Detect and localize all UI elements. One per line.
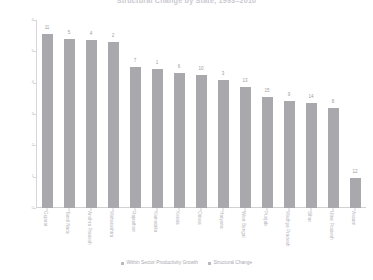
bar-slot: 15: [256, 20, 278, 208]
x-label-slot: Uttar Pradesh: [322, 211, 344, 257]
x-label-slot: Tamil Nadu: [58, 211, 80, 257]
x-tick-label: Gujarat: [42, 211, 47, 226]
chart-legend: Within Sector Productivity GrowthStructu…: [0, 261, 373, 266]
x-tick-label: Orissa: [196, 211, 201, 225]
x-label-slot: Haryana: [212, 211, 234, 257]
bar[interactable]: 12: [350, 178, 361, 208]
x-label-slot: Bihar: [300, 211, 322, 257]
chart-container: Structural Change by State, 1993–2010 An…: [0, 0, 373, 280]
x-label-slot: Assam: [344, 211, 366, 257]
bar-value-label: 6: [178, 65, 181, 70]
x-tick-label: Andhra Pradesh: [86, 211, 91, 245]
bar-value-label: 12: [352, 170, 357, 175]
bar[interactable]: 7: [130, 67, 141, 208]
x-label-slot: Andhra Pradesh: [80, 211, 102, 257]
bar-slot: 6: [168, 20, 190, 208]
bar-value-label: 10: [198, 67, 203, 72]
bar[interactable]: 2: [108, 42, 119, 208]
bar[interactable]: 11: [42, 34, 53, 208]
bar-series: 115427161031315914812: [36, 20, 366, 208]
x-tick-label: Kerala: [174, 211, 179, 225]
x-tick-label: Bihar: [306, 211, 311, 222]
x-tick-label: Uttar Pradesh: [328, 211, 333, 240]
bar-slot: 2: [102, 20, 124, 208]
legend-label: Structural Change: [213, 261, 252, 266]
bar-value-label: 13: [242, 79, 247, 84]
legend-label: Within Sector Productivity Growth: [126, 261, 197, 266]
bar-value-label: 11: [45, 26, 50, 31]
bar[interactable]: 10: [196, 75, 207, 208]
x-label-slot: West Bengal: [234, 211, 256, 257]
bar-value-label: 4: [90, 32, 93, 37]
bar-value-label: 3: [222, 72, 225, 77]
bar-slot: 4: [80, 20, 102, 208]
y-tick-mark: [33, 208, 36, 209]
x-label-slot: Maharashtra: [102, 211, 124, 257]
bar[interactable]: 13: [240, 87, 251, 208]
bar-value-label: 14: [308, 95, 313, 100]
legend-swatch-icon: [208, 262, 211, 265]
legend-swatch-icon: [121, 262, 124, 265]
bar-value-label: 15: [264, 89, 269, 94]
bar[interactable]: 4: [86, 40, 97, 208]
bar[interactable]: 15: [262, 97, 273, 208]
x-tick-label: West Bengal: [240, 211, 245, 238]
bar[interactable]: 14: [306, 103, 317, 208]
bar-slot: 9: [278, 20, 300, 208]
bar-slot: 13: [234, 20, 256, 208]
bar[interactable]: 8: [328, 108, 339, 208]
x-tick-label: Punjab: [262, 211, 267, 226]
bar[interactable]: 6: [174, 73, 185, 208]
x-label-slot: Punjab: [256, 211, 278, 257]
chart-title: Structural Change by State, 1993–2010: [0, 0, 373, 5]
legend-item[interactable]: Within Sector Productivity Growth: [121, 261, 198, 266]
x-tick-label: Maharashtra: [108, 211, 113, 237]
bar[interactable]: 3: [218, 80, 229, 208]
bar-value-label: 2: [112, 34, 115, 39]
bar-value-label: 5: [68, 31, 71, 36]
x-tick-label: Assam: [350, 211, 355, 225]
x-label-slot: Karnataka: [146, 211, 168, 257]
x-tick-label: Haryana: [218, 211, 223, 229]
bar[interactable]: 9: [284, 101, 295, 208]
bar-slot: 1: [146, 20, 168, 208]
bar-slot: 14: [300, 20, 322, 208]
x-label-slot: Gujarat: [36, 211, 58, 257]
x-label-slot: Madhya Pradesh: [278, 211, 300, 257]
bar-slot: 10: [190, 20, 212, 208]
bar[interactable]: 5: [64, 39, 75, 208]
bar-value-label: 9: [288, 93, 291, 98]
x-tick-label: Madhya Pradesh: [284, 211, 289, 246]
x-tick-labels: GujaratTamil NaduAndhra PradeshMaharasht…: [36, 211, 366, 257]
x-label-slot: Rajasthan: [124, 211, 146, 257]
bar[interactable]: 1: [152, 69, 163, 208]
x-tick-label: Rajasthan: [130, 211, 135, 232]
x-label-slot: Orissa: [190, 211, 212, 257]
x-tick-label: Karnataka: [152, 211, 157, 232]
bar-slot: 3: [212, 20, 234, 208]
x-label-slot: Kerala: [168, 211, 190, 257]
bar-slot: 12: [344, 20, 366, 208]
bar-value-label: 7: [134, 59, 137, 64]
x-tick-label: Tamil Nadu: [64, 211, 69, 234]
bar-value-label: 1: [156, 61, 159, 66]
plot-area: 0123456 115427161031315914812: [36, 20, 366, 208]
bar-slot: 8: [322, 20, 344, 208]
legend-item[interactable]: Structural Change: [208, 261, 252, 266]
bar-slot: 11: [36, 20, 58, 208]
bar-slot: 7: [124, 20, 146, 208]
bar-slot: 5: [58, 20, 80, 208]
bar-value-label: 8: [332, 100, 335, 105]
